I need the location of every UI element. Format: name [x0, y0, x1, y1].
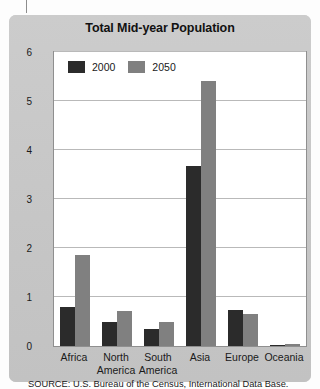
bar-2050[interactable]: [117, 311, 132, 346]
y-tick-label-5: 5: [12, 96, 32, 107]
bar-2000[interactable]: [270, 345, 285, 346]
legend-item-2050[interactable]: 2050: [128, 61, 175, 73]
bar-2000[interactable]: [144, 329, 159, 346]
bar-2050[interactable]: [159, 322, 174, 347]
bar-group: [102, 311, 132, 346]
bar-2000[interactable]: [228, 310, 243, 346]
bar-2050[interactable]: [201, 81, 216, 346]
source-note: SOURCE: U.S. Bureau of the Census, Inter…: [28, 379, 288, 389]
x-label-oceania: Oceania: [255, 351, 313, 364]
y-tick-label-2: 2: [12, 243, 32, 254]
bar-2000[interactable]: [186, 166, 201, 346]
legend-swatch-2050: [128, 61, 145, 73]
chart-card: Total Mid-year Population Population (Bi…: [9, 15, 311, 382]
gridline-6: [54, 51, 306, 52]
chart-page: Total Mid-year Population Population (Bi…: [0, 0, 320, 389]
gridline-2: [54, 247, 306, 248]
y-tick-label-6: 6: [12, 47, 32, 58]
bar-group: [228, 310, 258, 346]
y-tick-label-0: 0: [12, 341, 32, 352]
bar-2000[interactable]: [102, 322, 117, 346]
y-tick-label-1: 1: [12, 292, 32, 303]
bar-group: [186, 81, 216, 346]
y-tick-label-4: 4: [12, 145, 32, 156]
bar-group: [144, 322, 174, 347]
legend-item-2000[interactable]: 2000: [68, 61, 115, 73]
gridline-3: [54, 198, 306, 199]
bar-2000[interactable]: [60, 307, 75, 346]
legend-swatch-2000: [68, 61, 85, 73]
bar-2050[interactable]: [243, 314, 258, 346]
plot-area: [54, 52, 306, 346]
plot-frame: 2000 2050: [53, 51, 307, 347]
bar-2050[interactable]: [285, 344, 300, 346]
gridline-1: [54, 296, 306, 297]
bar-2050[interactable]: [75, 255, 90, 346]
chart-legend: 2000 2050: [68, 61, 176, 73]
legend-label-2050: 2050: [152, 61, 175, 73]
scan-artifact-line: [26, 0, 27, 13]
page-title: Total Mid-year Population: [9, 21, 311, 35]
gridline-4: [54, 149, 306, 150]
legend-label-2000: 2000: [92, 61, 115, 73]
bar-group: [60, 255, 90, 346]
y-tick-label-3: 3: [12, 194, 32, 205]
bar-group: [270, 344, 300, 346]
gridline-5: [54, 100, 306, 101]
